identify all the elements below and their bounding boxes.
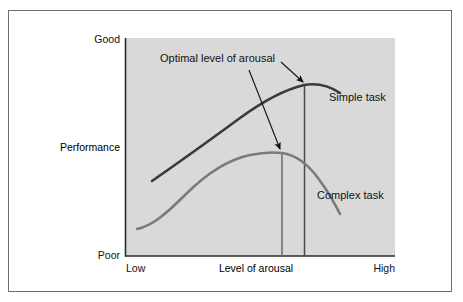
arousal-performance-chart: Good Poor Performance Low High Level of … [0,0,463,302]
figure-root: Good Poor Performance Low High Level of … [0,0,463,302]
x-tick-label-low: Low [126,262,146,274]
y-axis-title: Performance [60,141,120,153]
x-axis-title: Level of arousal [219,262,293,274]
annotation-optimal-level-of-arousal: Optimal level of arousal [160,52,275,64]
series-label-simple-task: Simple task [329,91,386,103]
x-tick-label-high: High [373,262,395,274]
plot-area-background [126,38,395,256]
series-label-complex-task: Complex task [317,189,384,201]
y-tick-label-poor: Poor [98,249,121,261]
y-tick-label-good: Good [94,33,120,45]
